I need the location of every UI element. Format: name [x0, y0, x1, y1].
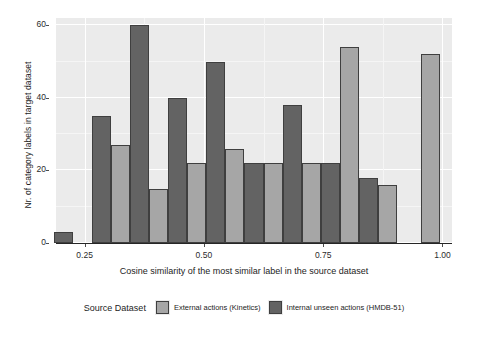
x-axis-label: Cosine similarity of the most similar la… — [0, 266, 488, 276]
y-tick-label: 60 — [20, 19, 46, 29]
bar-hmdb — [206, 62, 225, 243]
bar-hmdb — [283, 105, 302, 243]
x-tick-mark — [204, 244, 205, 247]
bar-kinetics — [340, 47, 359, 243]
x-tick-label: 1.00 — [419, 250, 465, 260]
bar-kinetics — [225, 149, 244, 243]
bar-kinetics — [149, 189, 168, 243]
bar-kinetics — [264, 163, 283, 243]
legend-item-hmdb[interactable]: Internal unseen actions (HMDB-51) — [268, 300, 405, 315]
legend-title: Source Dataset — [84, 303, 146, 313]
x-tick-label: 0.75 — [300, 250, 346, 260]
bar-kinetics — [421, 54, 440, 243]
legend-item-kinetics[interactable]: External actions (Kinetics) — [155, 300, 261, 315]
bar-kinetics — [302, 163, 321, 243]
bar-kinetics — [187, 163, 206, 243]
x-tick-mark — [85, 244, 86, 247]
legend-key-kinetics — [155, 300, 170, 315]
plot-panel — [56, 18, 452, 243]
bar-kinetics — [378, 185, 397, 243]
y-tick-label: 0 — [20, 237, 46, 247]
x-axis-line — [56, 243, 452, 244]
bar-hmdb — [244, 163, 263, 243]
bar-hmdb — [130, 25, 149, 243]
y-tick-mark — [46, 170, 49, 171]
y-tick-mark — [46, 243, 49, 244]
bar-hmdb — [168, 98, 187, 243]
legend-label-kinetics: External actions (Kinetics) — [174, 303, 261, 312]
legend-key-hmdb — [268, 300, 283, 315]
x-tick-mark — [442, 244, 443, 247]
y-tick-label: 40 — [20, 92, 46, 102]
y-axis-ticks: 0204060 — [18, 0, 46, 340]
legend-swatch-hmdb — [269, 301, 282, 314]
bar-series-group — [56, 18, 452, 243]
y-tick-mark — [46, 98, 49, 99]
legend-label-hmdb: Internal unseen actions (HMDB-51) — [287, 303, 405, 312]
y-tick-mark — [46, 25, 49, 26]
bar-hmdb — [92, 116, 111, 243]
x-tick-label: 0.50 — [181, 250, 227, 260]
chart-legend: Source Dataset External actions (Kinetic… — [0, 300, 488, 315]
bar-kinetics — [111, 145, 130, 243]
x-tick-label: 0.25 — [62, 250, 108, 260]
x-tick-mark — [323, 244, 324, 247]
legend-swatch-kinetics — [156, 301, 169, 314]
chart-figure: Nr. of category labels in target dataset… — [0, 0, 488, 340]
bar-hmdb — [54, 232, 73, 243]
bar-hmdb — [359, 178, 378, 243]
y-tick-label: 20 — [20, 164, 46, 174]
bar-hmdb — [321, 163, 340, 243]
